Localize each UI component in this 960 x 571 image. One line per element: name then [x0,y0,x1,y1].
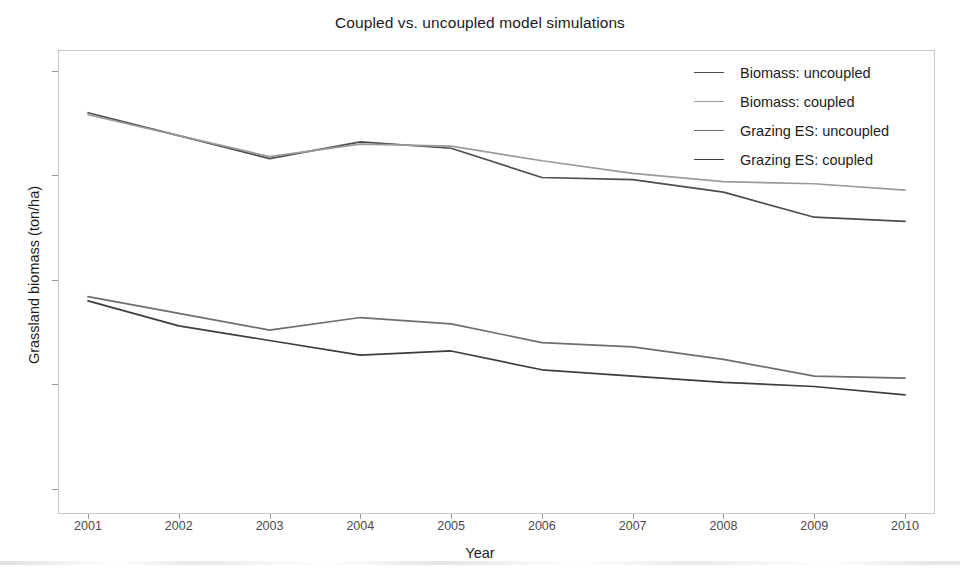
legend-item-biomass-coupled: Biomass: coupled [694,87,934,116]
series-line [88,301,905,395]
legend-line-icon [694,130,724,131]
legend-item-label: Grazing ES: coupled [740,152,873,168]
x-axis-label: Year [0,545,960,561]
chart-figure: Coupled vs. uncoupled model simulations … [0,0,960,571]
legend-item-label: Grazing ES: uncoupled [740,123,889,139]
legend-line-icon [694,159,724,160]
scan-edge-artifact [0,561,960,565]
chart-legend: Biomass: uncoupled Biomass: coupled Graz… [694,58,934,174]
legend-item-grazing-es-uncoupled: Grazing ES: uncoupled [694,116,934,145]
legend-item-label: Biomass: uncoupled [740,65,871,81]
legend-item-grazing-es-coupled: Grazing ES: coupled [694,145,934,174]
legend-item-biomass-uncoupled: Biomass: uncoupled [694,58,934,87]
legend-item-label: Biomass: coupled [740,94,854,110]
legend-line-icon [694,72,724,73]
legend-line-icon [694,101,724,102]
series-line [88,297,905,379]
